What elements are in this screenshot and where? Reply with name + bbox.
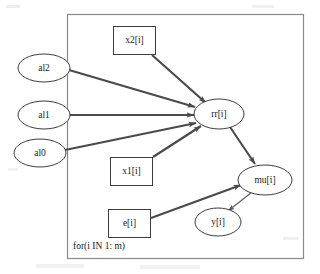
plate-label: for(i IN 1: m): [73, 241, 125, 252]
node-al2[interactable]: al2: [18, 54, 70, 82]
node-mui[interactable]: mu[i]: [238, 165, 292, 195]
model-canvas: for(i IN 1: m) al2: [0, 0, 320, 274]
node-x2i[interactable]: x2[i]: [114, 27, 156, 55]
node-al0[interactable]: al0: [14, 139, 66, 167]
node-x1i[interactable]: x1[i]: [111, 158, 153, 186]
edge-rri-to-mui: [230, 127, 255, 164]
edge-layer: [65, 55, 255, 218]
node-rri[interactable]: rr[i]: [194, 99, 244, 129]
graphical-model-diagram: for(i IN 1: m) al2: [0, 0, 320, 274]
node-al1[interactable]: al1: [18, 101, 70, 129]
edge-mui-to-yi: [228, 192, 252, 211]
edge-al0-to-rri: [65, 123, 196, 150]
node-yi[interactable]: y[i]: [195, 208, 241, 236]
node-ei[interactable]: e[i]: [109, 210, 151, 238]
